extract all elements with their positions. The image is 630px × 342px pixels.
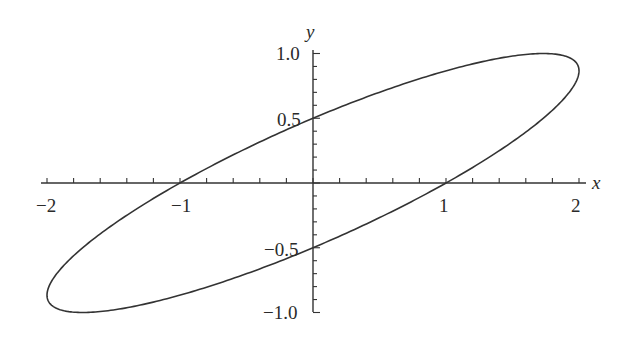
x-tick-label-neg2: −2: [36, 196, 56, 215]
y-axis-label: y: [306, 22, 314, 41]
y-tick-label-neg0.5: −0.5: [264, 240, 298, 259]
x-tick-label-1: 1: [439, 196, 449, 215]
lissajous-ellipse-chart: [0, 0, 630, 342]
x-tick-label-2: 2: [571, 196, 581, 215]
y-tick-label-neg1: −1.0: [263, 303, 297, 322]
y-axis-ticks: [313, 54, 320, 313]
x-axis-ticks: [47, 178, 579, 183]
x-tick-label-neg1: −1: [171, 196, 191, 215]
y-tick-label-1: 1.0: [276, 44, 300, 63]
y-tick-label-0.5: 0.5: [277, 110, 301, 129]
x-axis-label: x: [592, 173, 600, 192]
